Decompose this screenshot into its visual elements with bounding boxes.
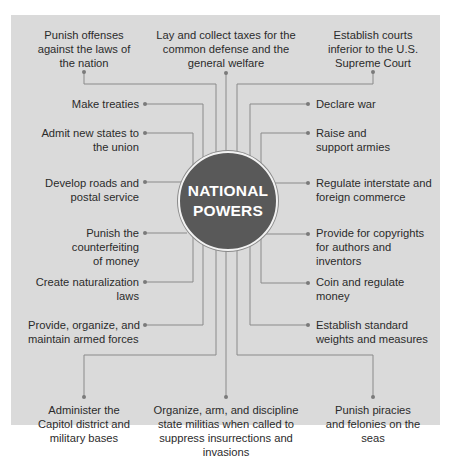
power-militias: Organize, arm, and discipline state mili… <box>140 403 312 459</box>
power-copyrights: Provide for copyrights for authors and i… <box>316 226 426 268</box>
power-armed-forces: Provide, organize, and maintain armed fo… <box>28 318 144 346</box>
power-counterfeiting: Punish the counterfeiting of money <box>60 226 139 268</box>
power-taxes: Lay and collect taxes for the common def… <box>153 28 299 70</box>
power-capitol: Administer the Capitol district and mili… <box>32 403 136 445</box>
power-treaties: Make treaties <box>20 97 139 111</box>
power-courts: Establish courts inferior to the U.S. Su… <box>317 28 429 70</box>
national-powers-hub: NATIONAL POWERS <box>178 151 278 251</box>
power-punish-offenses: Punish offenses against the laws of the … <box>34 28 134 70</box>
power-commerce: Regulate interstate and foreign commerce <box>316 176 438 204</box>
power-new-states: Admit new states to the union <box>40 126 139 154</box>
power-piracies: Punish piracies and felonies on the seas <box>325 403 421 445</box>
power-roads: Develop roads and postal service <box>30 176 139 204</box>
hub-title-line1: NATIONAL <box>188 181 269 201</box>
hub-title-line2: POWERS <box>193 201 263 221</box>
power-armies: Raise and support armies <box>316 126 400 154</box>
power-naturalization: Create naturalization laws <box>20 275 139 303</box>
power-coin: Coin and regulate money <box>316 275 408 303</box>
power-weights: Establish standard weights and measures <box>316 318 438 346</box>
power-declare-war: Declare war <box>316 97 436 111</box>
